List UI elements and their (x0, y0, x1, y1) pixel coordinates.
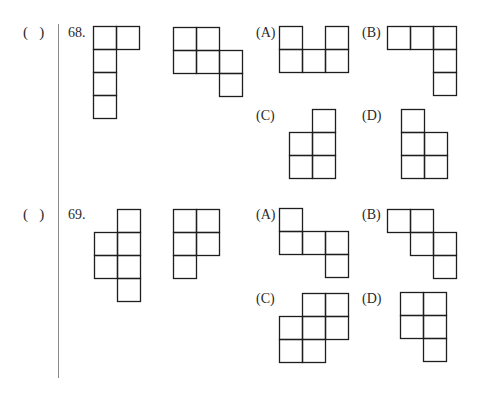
grid-cell (424, 293, 447, 316)
q69-option-c-shape (279, 293, 349, 363)
q69-option-b-shape (387, 209, 457, 279)
q69-option-a-label[interactable]: (A) (256, 207, 275, 223)
q69-option-d-label[interactable]: (D) (362, 291, 381, 307)
grid-cell (313, 156, 336, 179)
grid-cell (313, 133, 336, 156)
grid-cell (174, 210, 197, 233)
grid-cell (326, 27, 349, 50)
grid-cell (94, 50, 117, 73)
grid-cell (118, 279, 141, 302)
answer-blank-68[interactable]: ( ) (23, 24, 44, 41)
grid-cell (326, 317, 349, 340)
grid-cell (197, 233, 220, 256)
grid-cell (411, 210, 434, 233)
grid-cell (280, 209, 303, 232)
grid-cell (174, 233, 197, 256)
q68-option-d-label[interactable]: (D) (362, 108, 381, 124)
grid-cell (197, 28, 220, 51)
question-number-69: 69. (68, 207, 86, 223)
q69-option-d-shape (400, 292, 447, 362)
grid-cell (290, 133, 313, 156)
grid-cell (118, 233, 141, 256)
grid-cell (280, 27, 303, 50)
grid-cell (434, 73, 457, 96)
grid-cell (95, 233, 118, 256)
q68-option-b-shape (387, 26, 457, 96)
grid-cell (220, 74, 243, 97)
answer-blank-69[interactable]: ( ) (23, 206, 44, 223)
grid-cell (117, 27, 140, 50)
q69-option-a-shape (279, 208, 349, 278)
grid-cell (118, 256, 141, 279)
grid-cell (303, 340, 326, 363)
grid-cell (303, 317, 326, 340)
q68-option-d-shape (401, 109, 448, 179)
grid-cell (174, 51, 197, 74)
grid-cell (94, 27, 117, 50)
grid-cell (425, 133, 448, 156)
grid-cell (326, 50, 349, 73)
q69-option-b-label[interactable]: (B) (362, 207, 381, 223)
q68-given-shape-1 (93, 26, 163, 121)
grid-cell (280, 340, 303, 363)
grid-cell (280, 317, 303, 340)
grid-cell (326, 294, 349, 317)
grid-cell (434, 50, 457, 73)
q69-given-shape-1 (94, 209, 141, 303)
grid-cell (118, 210, 141, 233)
grid-cell (197, 210, 220, 233)
grid-cell (280, 50, 303, 73)
grid-cell (303, 50, 326, 73)
grid-cell (434, 256, 457, 279)
grid-cell (174, 256, 197, 279)
grid-cell (401, 293, 424, 316)
grid-cell (174, 28, 197, 51)
grid-cell (425, 156, 448, 179)
grid-cell (94, 73, 117, 96)
q69-option-c-label[interactable]: (C) (256, 291, 275, 307)
grid-cell (411, 233, 434, 256)
grid-cell (326, 255, 349, 278)
grid-cell (303, 232, 326, 255)
grid-cell (388, 27, 411, 50)
grid-cell (197, 51, 220, 74)
q68-option-a-shape (279, 26, 349, 73)
grid-cell (313, 110, 336, 133)
grid-cell (434, 27, 457, 50)
grid-cell (401, 316, 424, 339)
grid-cell (411, 27, 434, 50)
grid-cell (424, 339, 447, 362)
grid-cell (424, 316, 447, 339)
q68-option-c-shape (289, 109, 336, 179)
grid-cell (402, 110, 425, 133)
q68-given-shape-2 (173, 27, 243, 97)
q68-option-a-label[interactable]: (A) (256, 25, 275, 41)
grid-cell (220, 51, 243, 74)
grid-cell (402, 156, 425, 179)
question-number-68: 68. (68, 25, 86, 41)
q69-given-shape-2 (173, 209, 220, 279)
grid-cell (388, 210, 411, 233)
grid-cell (303, 294, 326, 317)
grid-cell (95, 256, 118, 279)
grid-cell (402, 133, 425, 156)
grid-cell (290, 156, 313, 179)
grid-cell (326, 232, 349, 255)
grid-cell (94, 96, 117, 119)
grid-cell (434, 233, 457, 256)
q68-option-c-label[interactable]: (C) (256, 108, 275, 124)
margin-divider-line (58, 24, 59, 378)
grid-cell (280, 232, 303, 255)
q68-option-b-label[interactable]: (B) (362, 25, 381, 41)
